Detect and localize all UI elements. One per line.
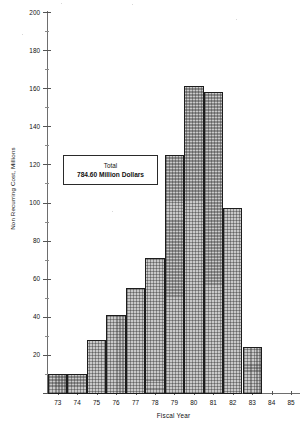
bar: [126, 288, 145, 394]
bar: [145, 258, 164, 394]
y-axis-tick-label: 60: [12, 275, 40, 282]
bar: [87, 340, 106, 394]
total-annotation-line2: 784.60 Million Dollars: [77, 170, 144, 180]
scan-speck: [236, 19, 237, 20]
y-axis-tick-label: 200: [12, 9, 40, 16]
bar: [165, 155, 184, 394]
y-axis-tick: [43, 355, 51, 356]
y-axis-minor-tick: [45, 336, 49, 337]
y-axis-tick-label: 180: [12, 47, 40, 54]
y-axis-minor-tick: [45, 183, 49, 184]
y-axis-tick-label: 40: [12, 313, 40, 320]
y-axis-tick-label: 80: [12, 237, 40, 244]
y-axis-tick-label: 160: [12, 85, 40, 92]
x-axis-tick-label: 80: [184, 399, 204, 406]
y-axis-minor-tick: [45, 31, 49, 32]
y-axis-tick: [43, 241, 51, 242]
bar: [48, 374, 67, 394]
x-axis-tick-label: 74: [67, 399, 87, 406]
y-axis-tick: [43, 203, 51, 204]
y-axis-tick-label: 140: [12, 123, 40, 130]
bar-chart: Non Recurring Cost, Millions 20406080100…: [0, 0, 308, 427]
bar: [223, 208, 242, 394]
x-axis-tick-label: 82: [223, 399, 243, 406]
y-axis-minor-tick: [45, 222, 49, 223]
y-axis-tick-label: 20: [12, 351, 40, 358]
scan-speck: [22, 34, 23, 35]
x-axis-tick-label: 78: [145, 399, 165, 406]
y-axis-tick: [43, 50, 51, 51]
x-axis-tick-label: 85: [281, 399, 301, 406]
y-axis-tick: [43, 317, 51, 318]
scan-speck: [132, 4, 133, 5]
y-axis-minor-tick: [45, 107, 49, 108]
y-axis-tick: [43, 88, 51, 89]
y-axis-minor-tick: [45, 145, 49, 146]
bar: [204, 92, 223, 394]
y-axis-tick: [43, 12, 51, 13]
y-axis-tick: [43, 164, 51, 165]
y-axis-tick-label: 100: [12, 199, 40, 206]
scan-speck: [112, 211, 113, 212]
y-axis-minor-tick: [45, 260, 49, 261]
bar: [184, 86, 203, 394]
y-axis-minor-tick: [45, 69, 49, 70]
x-axis-tick: [272, 391, 273, 395]
x-axis-tick: [291, 391, 292, 395]
x-axis-tick-label: 83: [242, 399, 262, 406]
y-axis-minor-tick: [45, 298, 49, 299]
bar: [67, 374, 86, 394]
bar: [106, 315, 125, 394]
x-axis-tick-label: 81: [203, 399, 223, 406]
total-annotation-line1: Total: [104, 161, 117, 170]
y-axis-tick-label: 120: [12, 161, 40, 168]
x-axis-label: Fiscal Year: [47, 412, 300, 419]
bar: [243, 347, 262, 394]
x-axis-tick-label: 73: [48, 399, 68, 406]
x-axis-tick-label: 84: [262, 399, 282, 406]
x-axis-tick-label: 75: [87, 399, 107, 406]
scan-speck: [61, 3, 62, 4]
x-axis-tick-label: 76: [106, 399, 126, 406]
total-annotation-box: Total 784.60 Million Dollars: [63, 155, 158, 185]
y-axis-tick: [43, 126, 51, 127]
x-axis-tick-label: 79: [164, 399, 184, 406]
x-axis-tick-label: 77: [126, 399, 146, 406]
y-axis-tick: [43, 279, 51, 280]
